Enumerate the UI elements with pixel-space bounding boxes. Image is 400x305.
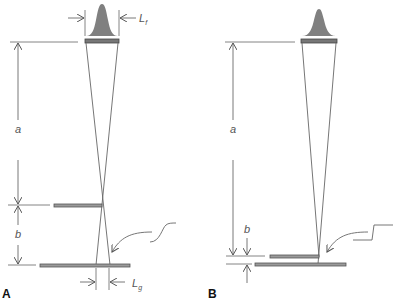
source-bar-a [85, 39, 119, 43]
label-lg: Lg [132, 277, 142, 292]
focal-spot-profile-a [86, 4, 118, 36]
label-a: a [15, 123, 21, 135]
panel-label-b: B [208, 287, 217, 301]
source-bar-b [301, 39, 337, 43]
label-b-b: b [244, 223, 250, 235]
label-lf: Lf [139, 12, 148, 26]
panel-label-a: A [2, 287, 11, 301]
label-b: b [15, 228, 21, 240]
detector-bar-b [255, 263, 346, 266]
object-bar-b [270, 255, 319, 258]
panel-b: a b B [208, 9, 393, 301]
panel-a: Lf a b Lg A [2, 4, 176, 301]
edge-profile-a [150, 223, 176, 242]
focal-spot-profile-b [302, 9, 336, 36]
geometric-unsharpness-diagram: Lf a b Lg A [0, 0, 400, 305]
object-bar-a [54, 204, 102, 207]
label-a-b: a [230, 123, 236, 135]
detector-bar-a [40, 264, 130, 267]
